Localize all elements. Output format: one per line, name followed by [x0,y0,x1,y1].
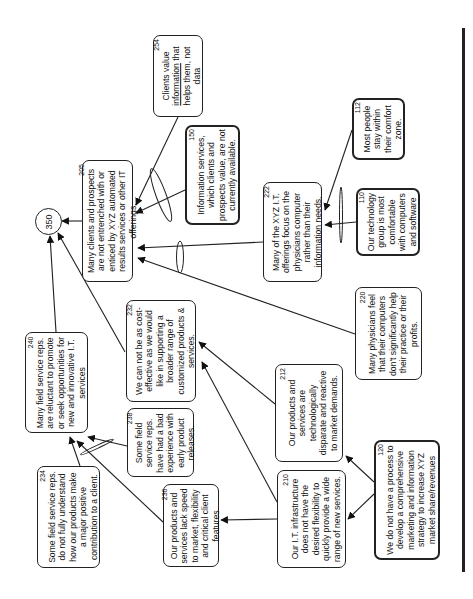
edge-120-to-212 [346,456,374,482]
node-ref-number: 210 [281,474,289,564]
edge-240-to-350 [50,236,56,332]
node-205[interactable]: 205Many clients and prospects are not en… [82,160,133,282]
edge-238-to-240 [88,437,127,446]
node-text: 238Some field service reps. have had a b… [125,412,195,473]
node-text-part: Clients value [161,51,171,100]
and-connector-C [340,187,343,243]
node-text: 120We do not have a process to develop a… [377,444,437,556]
node-text-body: We do not have a process to develop a co… [385,445,437,554]
node-ref-number: 238 [125,412,133,473]
edge-212-to-232 [199,342,275,404]
node-212[interactable]: 212Our products and services are technol… [275,364,343,462]
edge-112-to-222 [325,130,352,210]
node-text: 110Our technology group is most comforta… [358,192,418,252]
node-234[interactable]: 234Some field service reps. do not fully… [37,466,100,568]
node-text-underlined: information [172,63,182,106]
node-220[interactable]: 220Many physicians feel that their compu… [355,287,422,380]
node-text: 150Information services, which clients a… [188,129,238,221]
node-ref-number: 232 [126,304,134,398]
node-150[interactable]: 150Information services, which clients a… [185,125,240,225]
node-text-body: Many field service reps. are reluctant t… [34,336,86,428]
node-text-body: Many of the XYZ I.T. offerings focus on … [270,191,322,273]
edge-120-to-210 [348,494,374,519]
node-text-body: Our technology group is most comfortable… [366,193,418,251]
node-ref-number: 220 [358,291,366,376]
node-254[interactable]: 254Clients value information that helps … [153,35,203,117]
node-text-body: Some field service reps. do not fully un… [46,471,98,563]
edge-222-to-205 [138,242,263,248]
node-text: 222Many of the XYZ I.T. offerings focus … [262,186,322,278]
node-text: 232We can not be as cost-effective as we… [126,304,196,398]
node-ref-number: 212 [279,368,287,458]
edge-254-to-205 [136,117,178,205]
node-text: 210Our I.T. infrastructure does not have… [281,474,341,564]
node-ref-number: 150 [188,129,196,221]
node-ref-number: 120 [377,444,385,556]
edge-150-to-205 [136,190,185,213]
node-ref-number: 205 [77,164,85,278]
node-text: 212Our products and services are technol… [279,368,339,458]
node-text-body: We can not be as cost-effective as we wo… [134,307,196,395]
node-text-body: Many clients and prospects are not entre… [85,169,137,273]
node-text-body: Our products and services are technologi… [287,371,339,456]
edge-110-to-222 [325,222,356,225]
node-text: 112Most people stay within their comfort… [354,102,404,156]
node-text: 234Some field service reps. do not fully… [38,470,98,564]
node-ref-number: 254 [153,39,161,113]
node-text: 236Our products and services lack speed … [161,488,221,563]
node-ref-number: 110 [358,192,366,252]
node-text-body: Our products and services lack speed to … [169,488,221,563]
node-text-body: Some field service reps. have had a bad … [133,413,195,473]
node-ref-number: 112 [354,102,362,156]
node-222[interactable]: 222Many of the XYZ I.T. offerings focus … [263,182,322,282]
node-text: 220Many physicians feel that their compu… [358,291,418,376]
node-236[interactable]: 236Our products and services lack speed … [163,484,219,567]
node-text: 240Many field service reps. are reluctan… [26,336,86,429]
root-node-350[interactable]: 350 [35,208,62,235]
node-ref-number: 222 [262,186,270,278]
node-text: 254Clients value information that helps … [153,39,203,113]
edge-210-to-232 [202,362,277,502]
edge-210-to-236 [221,519,277,520]
page-border-line [462,28,465,572]
node-112[interactable]: 112Most people stay within their comfort… [352,98,405,160]
node-text-body: Most people stay within their comfort zo… [362,105,403,153]
node-text-body: Our I.T. infrastructure does not have th… [289,476,341,562]
node-ref-number: 240 [26,336,34,429]
node-232[interactable]: 232We can not be as cost-effective as we… [126,300,196,402]
and-connector-A [147,167,176,223]
node-text: 205Many clients and prospects are not en… [77,164,137,278]
node-110[interactable]: 110Our technology group is most comforta… [356,188,420,256]
node-ref-number: 236 [161,488,169,563]
and-connector-D [80,438,114,456]
node-ref-number: 234 [38,470,46,564]
node-text-body: Many physicians feel that their computer… [366,292,418,376]
node-210[interactable]: 210Our I.T. infrastructure does not have… [277,470,346,568]
edge-234-to-240 [70,437,80,466]
node-238[interactable]: 238Some field service reps. have had a b… [127,408,194,477]
node-120[interactable]: 120We do not have a process to develop a… [374,440,440,560]
node-240[interactable]: 240Many field service reps. are reluctan… [25,332,88,433]
root-node-label: 350 [44,214,54,229]
node-text-body: Information services, which clients and … [196,129,237,221]
